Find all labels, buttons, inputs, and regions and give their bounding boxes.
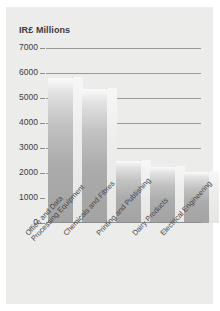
x-axis-labels: Office and Data Processing Equipment Che… xyxy=(0,226,220,311)
y-tick-label-2000: 2000 xyxy=(19,168,38,177)
tick-1000 xyxy=(40,198,45,199)
y-tick-label-5000: 5000 xyxy=(19,93,38,102)
tick-4000 xyxy=(40,123,45,124)
tick-6000 xyxy=(40,73,45,74)
y-tick-label-7000: 7000 xyxy=(19,43,38,52)
y-axis-labels: 7000 6000 5000 4000 3000 2000 1000 0 xyxy=(0,48,38,223)
y-tick-label-4000: 4000 xyxy=(19,118,38,127)
bar-chart-figure: IR£ Millions 7000 6000 5000 4000 3000 20… xyxy=(0,0,220,311)
y-tick-label-6000: 6000 xyxy=(19,68,38,77)
tick-5000 xyxy=(40,98,45,99)
chart-title: IR£ Millions xyxy=(19,25,70,36)
tick-7000 xyxy=(40,48,45,49)
y-tick-label-1000: 1000 xyxy=(19,193,38,202)
tick-3000 xyxy=(40,148,45,149)
y-tick-label-3000: 3000 xyxy=(19,143,38,152)
tick-2000 xyxy=(40,173,45,174)
